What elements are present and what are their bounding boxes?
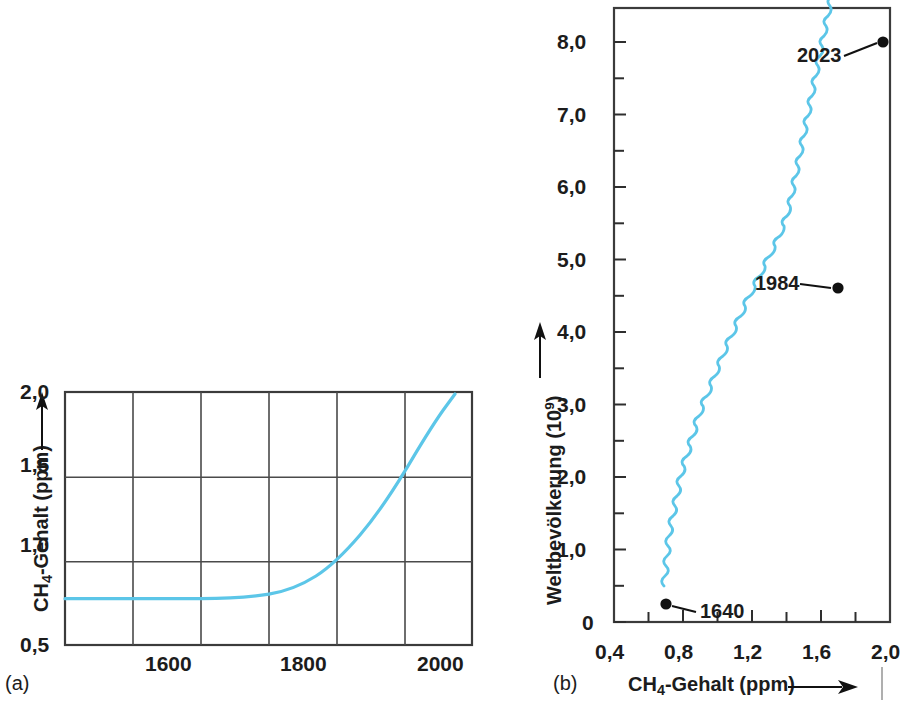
panel-b-y-major-ticks xyxy=(614,42,626,622)
panel-b-population-vs-ch4: Weltbevölkerung (109) 0 1,0 2,0 3,0 4,0 … xyxy=(500,0,908,706)
panel-b-annotation-1640 xyxy=(660,598,696,612)
panel-b-frame xyxy=(614,8,890,622)
panel-a-vertical-gridlines xyxy=(133,392,405,645)
panel-a-ch4-over-time: CH4-Gehalt (ppm) 0,5 1,0 1,5 2,0 1600 18… xyxy=(0,0,500,706)
panel-b-annotation-label-2023: 2023 xyxy=(797,44,842,67)
figure-root: CH4-Gehalt (ppm) 0,5 1,0 1,5 2,0 1600 18… xyxy=(0,0,908,706)
panel-b-annotation-label-1640: 1640 xyxy=(700,600,745,623)
panel-b-annotation-label-1984: 1984 xyxy=(755,272,800,295)
panel-a-curve xyxy=(65,394,455,599)
panel-b-tag: (b) xyxy=(553,672,577,695)
panel-b-annotation-1984 xyxy=(800,282,844,293)
panel-a-plot xyxy=(0,0,500,706)
panel-b-annotation-2023 xyxy=(844,36,889,56)
panel-a-tag: (a) xyxy=(5,672,29,695)
